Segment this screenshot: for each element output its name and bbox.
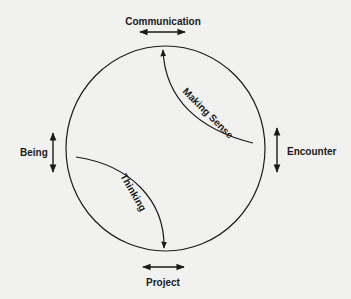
pole-label-right: Encounter [287,146,337,157]
pole-label-top: Communication [125,16,201,27]
pole-label-left: Being [20,147,48,158]
cycle-circle [66,46,265,251]
arc-label-making-sense: Making Sense [181,86,236,141]
arc-label-thinking: Thinking [118,172,148,214]
pole-label-bottom: Project [146,277,181,288]
making-sense-arrow [163,50,253,143]
thinking-arrow [76,157,164,248]
diagram-canvas: Communication Being Encounter Project Ma… [0,0,351,299]
